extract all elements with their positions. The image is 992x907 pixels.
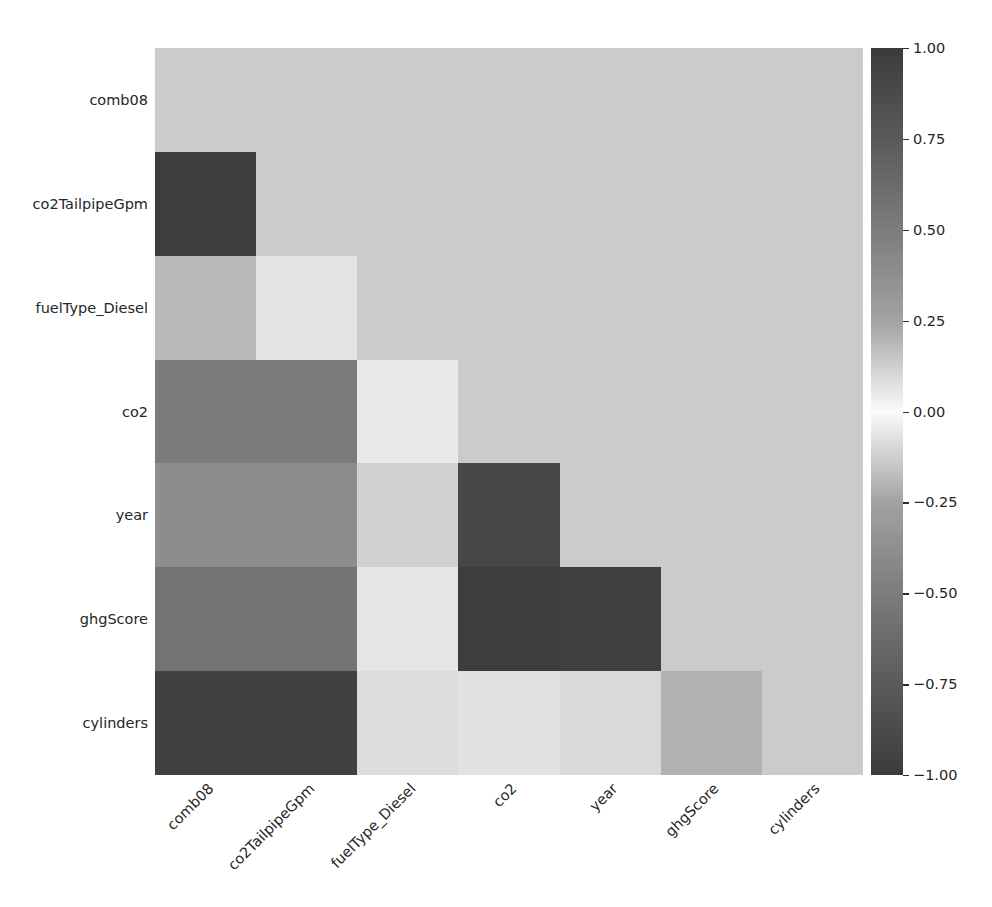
colorbar-tick-label: −0.50 <box>913 586 957 601</box>
colorbar-tick-mark <box>903 139 909 140</box>
heatmap-cell <box>155 256 256 360</box>
heatmap-cell <box>560 567 661 671</box>
x-axis-tick-labels: comb08co2TailpipeGpmfuelType_Dieselco2ye… <box>155 775 863 905</box>
heatmap-cell <box>661 671 762 775</box>
heatmap-cell-masked <box>155 48 256 152</box>
heatmap-cell <box>155 360 256 464</box>
x-tick-label-cylinders: cylinders <box>766 781 823 838</box>
heatmap-cell-masked <box>357 152 458 256</box>
heatmap-cell-masked <box>560 48 661 152</box>
heatmap-cell <box>357 360 458 464</box>
heatmap-cell-masked <box>661 360 762 464</box>
colorbar-tick-mark <box>903 502 909 503</box>
heatmap-cell-masked <box>762 152 863 256</box>
y-tick-label-comb08: comb08 <box>0 93 148 108</box>
heatmap-cell-masked <box>661 463 762 567</box>
heatmap-cell-masked <box>458 360 559 464</box>
colorbar-tick-mark <box>903 230 909 231</box>
heatmap-cell <box>458 671 559 775</box>
colorbar-tick-label: −1.00 <box>913 768 957 783</box>
heatmap-cell <box>155 567 256 671</box>
colorbar-tick-label: 1.00 <box>913 41 945 56</box>
heatmap-cell <box>458 463 559 567</box>
heatmap-cell <box>155 463 256 567</box>
colorbar: 1.000.750.500.250.00−0.25−0.50−0.75−1.00 <box>871 48 903 775</box>
heatmap-cell <box>256 463 357 567</box>
heatmap-cell <box>357 567 458 671</box>
y-tick-label-fueltype_diesel: fuelType_Diesel <box>0 301 148 316</box>
x-tick-label-ghgscore: ghgScore <box>663 781 721 839</box>
heatmap-cell-masked <box>762 256 863 360</box>
heatmap-cell <box>256 671 357 775</box>
x-tick-label-fueltype_diesel: fuelType_Diesel <box>328 781 418 871</box>
colorbar-tick-label: 0.50 <box>913 223 945 238</box>
heatmap-cell-masked <box>661 48 762 152</box>
heatmap-cell <box>560 671 661 775</box>
heatmap-cell <box>256 567 357 671</box>
heatmap-cell-masked <box>762 48 863 152</box>
heatmap-cell-masked <box>357 256 458 360</box>
colorbar-gradient <box>871 48 903 775</box>
heatmap-cell <box>458 567 559 671</box>
heatmap-cell-masked <box>560 463 661 567</box>
colorbar-tick-label: 0.25 <box>913 313 945 328</box>
heatmap-cell-masked <box>762 463 863 567</box>
correlation-heatmap-figure: comb08co2TailpipeGpmfuelType_Dieselco2ye… <box>0 0 992 907</box>
colorbar-tick-mark <box>903 593 909 594</box>
heatmap-cell-masked <box>661 567 762 671</box>
x-tick-label-co2tailpipegpm: co2TailpipeGpm <box>225 781 317 873</box>
colorbar-tick-label: −0.75 <box>913 677 957 692</box>
colorbar-tick-label: −0.25 <box>913 495 957 510</box>
y-tick-label-year: year <box>0 508 148 523</box>
heatmap-cell-masked <box>762 360 863 464</box>
heatmap-cell-masked <box>357 48 458 152</box>
colorbar-tick-mark <box>903 412 909 413</box>
heatmap-plot-area <box>155 48 863 775</box>
heatmap-cell-masked <box>661 152 762 256</box>
heatmap-cell <box>357 463 458 567</box>
heatmap-cell-masked <box>560 152 661 256</box>
heatmap-cell-masked <box>458 152 559 256</box>
heatmap-cell <box>256 256 357 360</box>
colorbar-tick-label: 0.75 <box>913 132 945 147</box>
heatmap-cell-masked <box>458 48 559 152</box>
colorbar-tick-mark <box>903 48 909 49</box>
heatmap-cell-masked <box>458 256 559 360</box>
heatmap-cell-masked <box>560 360 661 464</box>
heatmap-cell-masked <box>256 48 357 152</box>
heatmap-cell <box>155 152 256 256</box>
heatmap-cell-masked <box>661 256 762 360</box>
heatmap-cell <box>357 671 458 775</box>
colorbar-tick-label: 0.00 <box>913 404 945 419</box>
heatmap-cell <box>155 671 256 775</box>
x-tick-label-co2: co2 <box>491 781 520 810</box>
heatmap-cell-masked <box>560 256 661 360</box>
colorbar-tick-mark <box>903 684 909 685</box>
colorbar-tick-mark <box>903 321 909 322</box>
heatmap-cell-grid <box>155 48 863 775</box>
colorbar-tick-mark <box>903 775 909 776</box>
heatmap-cell-masked <box>762 567 863 671</box>
y-tick-label-ghgscore: ghgScore <box>0 612 148 627</box>
heatmap-cell-masked <box>256 152 357 256</box>
x-tick-label-comb08: comb08 <box>164 781 216 833</box>
y-tick-label-co2: co2 <box>0 405 148 420</box>
y-tick-label-cylinders: cylinders <box>0 716 148 731</box>
x-tick-label-year: year <box>587 781 620 814</box>
heatmap-cell-masked <box>762 671 863 775</box>
y-tick-label-co2tailpipegpm: co2TailpipeGpm <box>0 197 148 212</box>
heatmap-cell <box>256 360 357 464</box>
y-axis-tick-labels: comb08co2TailpipeGpmfuelType_Dieselco2ye… <box>0 48 148 775</box>
